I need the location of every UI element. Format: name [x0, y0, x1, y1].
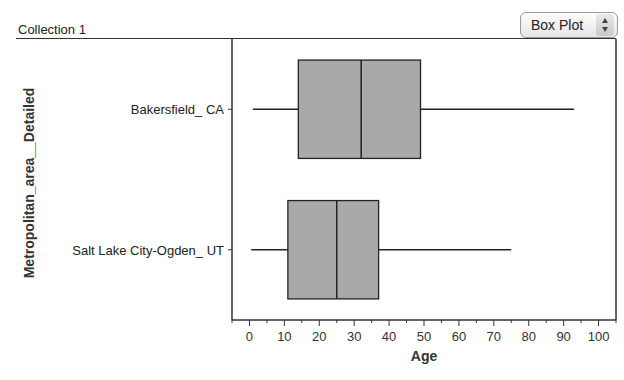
box-0	[253, 60, 574, 158]
x-tick-label: 40	[382, 329, 396, 344]
iqr-box	[288, 201, 379, 299]
y-category-label: Bakersfield_ CA	[131, 102, 225, 117]
x-tick-label: 0	[246, 329, 253, 344]
x-tick-label: 10	[277, 329, 291, 344]
y-axis-label: Metropolitan_area__Detailed	[21, 88, 37, 279]
x-axis: 0102030405060708090100	[232, 320, 616, 344]
iqr-box	[298, 60, 420, 158]
x-tick-label: 70	[487, 329, 501, 344]
x-tick-label: 50	[417, 329, 431, 344]
box-1	[251, 201, 511, 299]
boxes-group	[251, 60, 574, 299]
x-tick-label: 90	[556, 329, 570, 344]
x-tick-label: 30	[347, 329, 361, 344]
x-tick-label: 20	[312, 329, 326, 344]
x-axis-label: Age	[411, 348, 438, 364]
y-axis: Bakersfield_ CASalt Lake City-Ogden_ UT	[72, 102, 232, 258]
x-tick-label: 60	[452, 329, 466, 344]
x-tick-label: 80	[521, 329, 535, 344]
x-tick-label: 100	[588, 329, 610, 344]
box-plot-chart: 0102030405060708090100 Bakersfield_ CASa…	[0, 0, 624, 380]
y-category-label: Salt Lake City-Ogden_ UT	[72, 243, 224, 258]
